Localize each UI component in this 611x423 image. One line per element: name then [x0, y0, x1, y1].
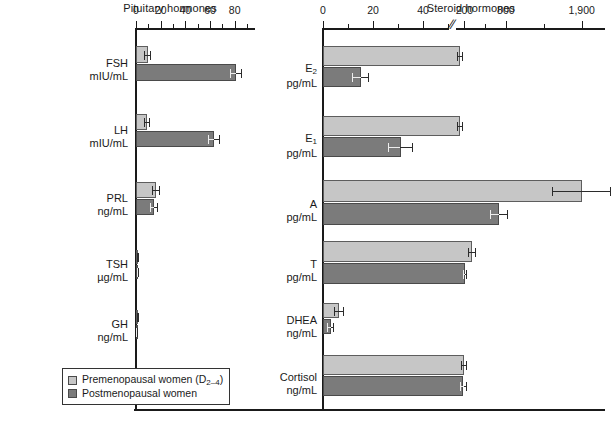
error-bar-e2-premenopausal	[457, 56, 463, 57]
x-tick-minor	[173, 24, 174, 28]
axis-break-marker: ∕∕	[449, 17, 456, 31]
error-cap-upper	[368, 73, 369, 82]
legend-label: Postmenopausal women	[82, 387, 197, 400]
legend-swatch-pre	[68, 376, 77, 385]
error-cap-lower	[144, 51, 145, 60]
error-cap-lower	[144, 118, 145, 127]
category-label-tsh: TSHµg/mL	[38, 258, 128, 283]
error-cap-upper	[462, 122, 463, 131]
error-bar-e1-postmenopausal	[388, 147, 413, 148]
category-label-gh: GHng/mL	[38, 318, 128, 343]
error-whisker	[552, 191, 611, 192]
error-cap-upper	[150, 51, 151, 60]
bar-e2-premenopausal	[323, 46, 460, 66]
category-name: DHEA	[286, 314, 317, 326]
bar-fsh-postmenopausal	[136, 64, 236, 81]
category-unit: µg/mL	[38, 271, 128, 284]
x-tick-label: 40	[179, 4, 191, 16]
category-unit: mIU/mL	[38, 70, 128, 83]
error-cap-lower	[327, 323, 328, 332]
bar-t-postmenopausal	[323, 263, 465, 284]
error-cap-lower	[468, 248, 469, 257]
bar-e1-premenopausal	[323, 116, 460, 136]
error-cap-upper	[462, 52, 463, 61]
error-bar-dhea-premenopausal	[334, 311, 344, 312]
error-bar-gh-postmenopausal	[136, 332, 138, 333]
error-cap-upper	[466, 270, 467, 279]
x-axis-line-pituitary	[136, 28, 255, 30]
error-cap-lower	[463, 270, 464, 279]
error-cap-lower	[334, 307, 335, 316]
category-unit: ng/mL	[38, 205, 128, 218]
category-name: LH	[114, 124, 128, 136]
error-cap-upper	[159, 186, 160, 195]
x-tick-major	[464, 21, 465, 28]
x-tick-label: 80	[229, 4, 241, 16]
error-cap-upper	[138, 313, 139, 322]
x-tick-major	[323, 21, 324, 28]
category-unit: ng/mL	[247, 384, 317, 397]
error-bar-t-premenopausal	[468, 252, 476, 253]
error-bar-lh-postmenopausal	[208, 139, 220, 140]
category-label-e: E1pg/mL	[247, 132, 317, 159]
error-cap-lower	[490, 210, 491, 219]
legend-item-premenopausal: Premenopausal women (D2–4)	[68, 373, 223, 387]
error-cap-upper	[157, 203, 158, 212]
error-bar-tsh-premenopausal	[137, 257, 139, 258]
category-name: FSH	[106, 57, 128, 69]
error-bar-e1-premenopausal	[457, 126, 463, 127]
plot-left-axis-pituitary	[135, 28, 137, 410]
bar-cortisol-premenopausal	[323, 355, 464, 375]
error-cap-lower	[208, 135, 209, 144]
x-tick-label: 0	[133, 4, 139, 16]
x-tick-minor	[544, 24, 545, 28]
x-tick-label: 1,900	[569, 4, 595, 16]
error-cap-lower	[460, 382, 461, 391]
error-bar-prl-postmenopausal	[150, 207, 157, 208]
error-cap-upper	[466, 382, 467, 391]
error-cap-upper	[138, 268, 139, 277]
x-tick-minor	[247, 24, 248, 28]
bar-cortisol-postmenopausal	[323, 376, 463, 396]
error-cap-upper	[333, 323, 334, 332]
x-tick-label: 40	[417, 4, 429, 16]
error-cap-upper	[412, 143, 413, 152]
error-bar-prl-premenopausal	[152, 190, 160, 191]
x-tick-label: 60	[204, 4, 216, 16]
x-tick-major	[210, 21, 211, 28]
error-bar-lh-premenopausal	[144, 122, 149, 123]
panel-title-pituitary: Pituitary hormones	[0, 2, 300, 14]
category-name: E1	[305, 132, 317, 144]
plot-bottom-border-steroid	[321, 409, 605, 411]
error-cap-lower	[388, 143, 389, 152]
x-tick-minor	[348, 24, 349, 28]
error-bar-gh-premenopausal	[137, 317, 139, 318]
category-name: PRL	[107, 192, 128, 204]
error-cap-upper	[241, 69, 242, 78]
category-unit: pg/mL	[247, 211, 317, 224]
x-tick-major	[235, 21, 236, 28]
category-name: E2	[305, 62, 317, 74]
category-name: T	[310, 258, 317, 270]
error-bar-e2-postmenopausal	[352, 77, 370, 78]
x-tick-label: 800	[497, 4, 515, 16]
category-unit: ng/mL	[247, 327, 317, 340]
x-tick-major	[373, 21, 374, 28]
error-bar-t-postmenopausal	[463, 274, 466, 275]
error-bar-a-postmenopausal	[490, 214, 508, 215]
error-cap-upper	[475, 248, 476, 257]
error-bar-cortisol-premenopausal	[461, 365, 467, 366]
category-unit: pg/mL	[247, 271, 317, 284]
category-name: Cortisol	[280, 371, 317, 383]
panel-steroid-hormones: Steroid hormones 020402008001,900∕∕ E2pg…	[303, 0, 609, 423]
category-name: GH	[112, 318, 129, 330]
error-bar-fsh-postmenopausal	[230, 73, 242, 74]
legend-swatch-post	[68, 389, 77, 398]
x-tick-major	[423, 21, 424, 28]
error-cap-upper	[138, 253, 139, 262]
error-bar-cortisol-postmenopausal	[460, 386, 468, 387]
x-axis-line-steroid	[323, 28, 605, 30]
bar-a-premenopausal	[323, 180, 582, 202]
legend-label: Premenopausal women (D2–4)	[82, 373, 223, 387]
